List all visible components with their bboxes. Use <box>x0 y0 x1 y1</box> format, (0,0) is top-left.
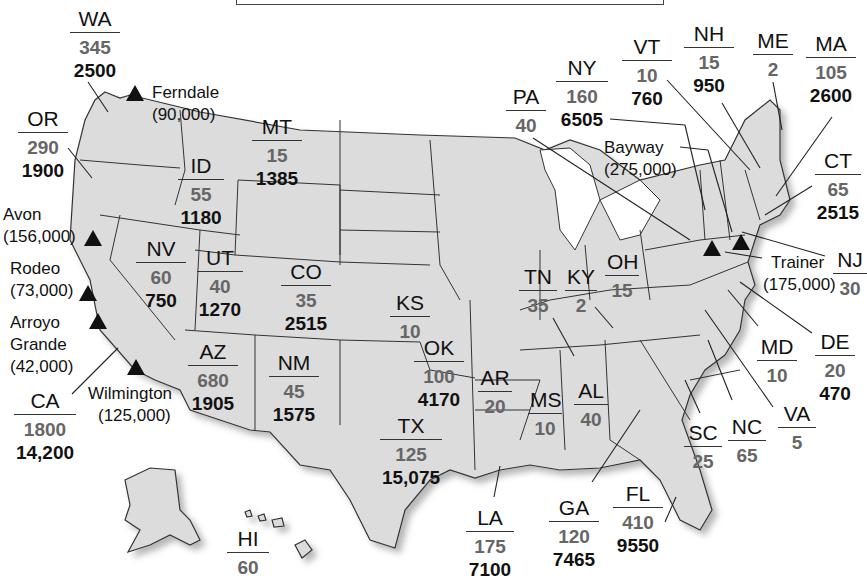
state-abbr: AL <box>574 380 608 405</box>
state-value-2: 7100 <box>466 560 514 579</box>
state-label-me: ME 2 <box>753 30 793 79</box>
state-value-1: 120 <box>549 527 599 546</box>
state-value-2: 7465 <box>549 550 599 569</box>
state-label-ma: MA 105 2600 <box>806 33 856 105</box>
refinery-marker-bayway <box>732 234 750 250</box>
state-abbr: TN <box>519 266 557 291</box>
refinery-capacity: (275,000) <box>604 160 677 179</box>
refinery-marker-rodeo <box>79 285 97 301</box>
state-label-ca: CA 1800 14,200 <box>14 390 76 462</box>
state-value-2: 2515 <box>815 203 861 222</box>
refinery-label-wilmington: Wilmington (125,000) <box>88 383 172 427</box>
state-value-1: 160 <box>556 87 608 106</box>
state-abbr: OH <box>605 251 639 276</box>
state-value-1: 20 <box>478 397 512 416</box>
state-abbr: TX <box>380 415 442 440</box>
state-label-vt: VT 10 760 <box>622 36 672 108</box>
state-value-2: 1180 <box>178 208 224 227</box>
state-label-ga: GA 120 7465 <box>549 497 599 569</box>
state-value-1: 290 <box>18 138 68 157</box>
state-value-1: 60 <box>227 558 269 577</box>
state-abbr: ID <box>178 155 224 180</box>
state-abbr: LA <box>466 507 514 532</box>
state-value-1: 15 <box>605 281 639 300</box>
alaska-shape <box>125 468 200 552</box>
state-label-ky: KY 2 <box>565 266 597 315</box>
state-label-fl: FL 410 9550 <box>613 483 663 555</box>
state-label-ut: UT 40 1270 <box>197 247 243 319</box>
state-abbr: NM <box>269 352 319 377</box>
refinery-name: Bayway <box>604 138 664 157</box>
state-value-1: 15 <box>684 53 734 72</box>
state-abbr: SC <box>684 422 722 447</box>
state-value-2: 1270 <box>197 300 243 319</box>
state-label-tx: TX 125 15,075 <box>380 415 442 487</box>
refinery-capacity: (175,000) <box>763 275 836 294</box>
state-abbr: HI <box>227 528 269 553</box>
state-abbr: NY <box>556 57 608 82</box>
state-value-1: 30 <box>833 279 867 298</box>
state-value-1: 60 <box>136 268 186 287</box>
state-value-2: 1385 <box>252 169 302 188</box>
state-abbr: MT <box>252 116 302 141</box>
state-label-az: AZ 680 1905 <box>188 341 238 413</box>
state-abbr: MA <box>806 33 856 58</box>
refinery-capacity: (125,000) <box>88 406 171 425</box>
state-value-1: 15 <box>252 146 302 165</box>
state-abbr: ME <box>753 30 793 55</box>
state-abbr: NH <box>684 23 734 48</box>
refinery-capacity: (73,000) <box>10 281 73 300</box>
refinery-label-trainer: Trainer (175,000) <box>763 252 836 296</box>
state-value-1: 10 <box>622 66 672 85</box>
state-value-1: 105 <box>806 63 856 82</box>
state-abbr: UT <box>197 247 243 272</box>
state-label-nh: NH 15 950 <box>684 23 734 95</box>
state-abbr: AR <box>478 367 512 392</box>
state-abbr: KY <box>565 266 597 291</box>
state-value-2: 14,200 <box>14 443 76 462</box>
refinery-marker-trainer <box>703 240 721 256</box>
state-label-de: DE 20 470 <box>815 331 855 403</box>
state-value-2: 9550 <box>613 536 663 555</box>
state-abbr: OR <box>18 108 68 133</box>
state-value-1: 2 <box>565 296 597 315</box>
state-value-1: 100 <box>414 367 464 386</box>
refinery-label-rodeo: Rodeo (73,000) <box>10 258 73 302</box>
state-value-2: 2515 <box>281 314 331 333</box>
refinery-capacity: (90,000) <box>152 105 215 124</box>
state-label-ar: AR 20 <box>478 367 512 416</box>
state-label-ny: NY 160 6505 <box>556 57 608 129</box>
state-value-2: 15,075 <box>380 468 442 487</box>
state-abbr: MS <box>528 389 562 414</box>
state-value-2: 760 <box>622 89 672 108</box>
state-abbr: OK <box>414 337 464 362</box>
refinery-name: Grande <box>10 335 67 354</box>
state-abbr: CO <box>281 261 331 286</box>
state-abbr: NJ <box>833 249 867 274</box>
state-value-2: 750 <box>136 291 186 310</box>
state-value-1: 410 <box>613 513 663 532</box>
refinery-marker-arroyo-grande <box>89 313 107 329</box>
hawaii-shape <box>295 540 312 558</box>
state-value-1: 65 <box>815 180 861 199</box>
state-label-ms: MS 10 <box>528 389 562 438</box>
state-label-sc: SC 25 <box>684 422 722 471</box>
state-label-va: VA 5 <box>778 403 816 452</box>
state-value-2: 4170 <box>414 390 464 409</box>
state-abbr: AZ <box>188 341 238 366</box>
refinery-label-bayway: Bayway (275,000) <box>604 137 677 181</box>
leader-bayway <box>680 147 708 150</box>
refinery-label-ferndale: Ferndale (90,000) <box>152 82 219 126</box>
refinery-name: Trainer <box>763 253 824 272</box>
refinery-marker-ferndale <box>126 85 144 101</box>
state-value-2: 950 <box>684 76 734 95</box>
state-label-pa: PA 40 <box>506 86 546 135</box>
state-abbr: KS <box>390 292 430 317</box>
state-label-md: MD 10 <box>757 336 797 385</box>
leader-ny <box>610 119 685 125</box>
refinery-marker-avon <box>84 230 102 246</box>
state-label-la: LA 175 7100 <box>466 507 514 579</box>
state-label-ct: CT 65 2515 <box>815 150 861 222</box>
state-label-id: ID 55 1180 <box>178 155 224 227</box>
state-label-oh: OH 15 <box>605 251 639 300</box>
